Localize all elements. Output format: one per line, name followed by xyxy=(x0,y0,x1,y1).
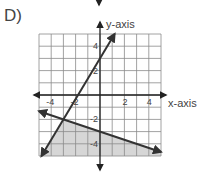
svg-text:-4: -4 xyxy=(46,97,54,107)
svg-text:-4: -4 xyxy=(90,139,98,149)
svg-text:2: 2 xyxy=(122,97,127,107)
coordinate-plane: -4-22442-2-4 y-axis x-axis xyxy=(0,0,199,174)
x-axis-label: x-axis xyxy=(168,97,197,109)
svg-text:4: 4 xyxy=(147,97,152,107)
svg-text:-2: -2 xyxy=(90,114,98,124)
y-axis-label: y-axis xyxy=(106,18,135,30)
svg-text:4: 4 xyxy=(93,41,98,51)
